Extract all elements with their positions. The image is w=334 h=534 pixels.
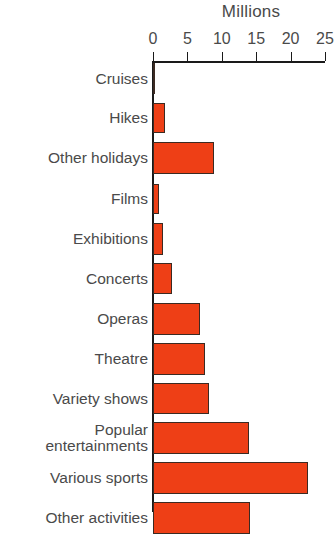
plot-area: CruisesHikesOther holidaysFilmsExhibitio… [0, 63, 334, 515]
bar-row: Other holidays [0, 142, 334, 174]
bar-category-label: Theatre [0, 350, 148, 367]
x-axis-tick-label: 20 [282, 30, 300, 48]
bar [153, 422, 249, 454]
bar-category-label: Other holidays [0, 149, 148, 166]
bar-category-label-line: entertainments [0, 438, 148, 454]
bar-category-label: Popularentertainments [0, 422, 148, 454]
bar-row: Concerts [0, 263, 334, 294]
x-axis-tick-mark [153, 52, 154, 61]
x-axis-tick-mark [291, 52, 292, 61]
bar [153, 502, 250, 534]
bar-category-label: Other activities [0, 509, 148, 526]
x-axis-tick-label: 5 [183, 30, 192, 48]
bar [153, 303, 200, 335]
bar [153, 142, 214, 174]
bar-category-label: Exhibitions [0, 230, 148, 247]
x-axis-tick-mark [256, 52, 257, 61]
bar [153, 63, 155, 94]
bar-row: Other activities [0, 502, 334, 534]
bar-row: Popularentertainments [0, 422, 334, 454]
x-axis-tick-mark [325, 52, 326, 61]
bar [153, 263, 172, 294]
bar-row: Various sports [0, 462, 334, 494]
x-axis-tick-mark [187, 52, 188, 61]
bar [153, 103, 165, 133]
bar [153, 184, 159, 214]
bar [153, 343, 205, 375]
bar-row: Theatre [0, 343, 334, 375]
bar-category-label: Hikes [0, 109, 148, 126]
bar-category-label: Variety shows [0, 390, 148, 407]
x-axis-tick-mark [222, 52, 223, 61]
bar-row: Exhibitions [0, 223, 334, 255]
x-axis-tick-label: 10 [213, 30, 231, 48]
x-axis-tick-label: 25 [316, 30, 334, 48]
x-axis-tick-label: 0 [149, 30, 158, 48]
bar-category-label: Operas [0, 310, 148, 327]
bar [153, 223, 163, 255]
bar-row: Hikes [0, 103, 334, 133]
bar-category-label: Concerts [0, 270, 148, 287]
x-axis: 0510152025 [0, 30, 334, 62]
bar-category-label: Cruises [0, 70, 148, 87]
x-axis-tick-label: 15 [247, 30, 265, 48]
bar-category-label: Films [0, 190, 148, 207]
bar-category-label-line: Popular [0, 422, 148, 438]
bar-row: Operas [0, 303, 334, 335]
bar-category-label: Various sports [0, 469, 148, 486]
chart-title: Millions [196, 2, 306, 22]
bar-row: Films [0, 184, 334, 214]
bar-row: Variety shows [0, 383, 334, 414]
bar [153, 462, 308, 494]
bar-row: Cruises [0, 63, 334, 94]
bar [153, 383, 209, 414]
